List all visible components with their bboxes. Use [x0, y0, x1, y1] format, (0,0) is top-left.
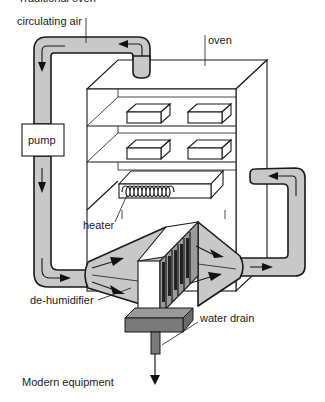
- tray: [188, 140, 231, 159]
- pump-label: pump: [28, 134, 56, 146]
- water-drain: [125, 308, 193, 385]
- air-circulation-diagram: Traditional oven pump: [0, 0, 325, 402]
- diagram-caption: Modern equipment: [22, 376, 114, 388]
- tray: [127, 140, 170, 159]
- top-caption-partial: Traditional oven: [18, 0, 96, 4]
- drain-arrowhead-down: [150, 375, 160, 385]
- oven-label: oven: [208, 34, 232, 46]
- circulating-air-label: circulating air: [17, 15, 82, 27]
- heater: [119, 171, 223, 198]
- heater-label: heater: [83, 219, 115, 231]
- dehumidifier-label: de-humidifier: [30, 294, 94, 306]
- tray: [188, 104, 231, 123]
- water-drain-label: water drain: [199, 312, 254, 324]
- oven-exhaust-stub: [133, 56, 150, 78]
- tray: [127, 104, 170, 123]
